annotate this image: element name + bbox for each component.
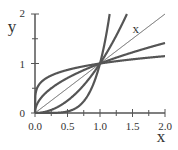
x-tick-label: 0.5	[61, 120, 75, 132]
y-axis-label: y	[8, 17, 17, 36]
y-tick-label: 1	[20, 58, 26, 70]
y-tick-label: 0	[20, 107, 26, 119]
x-tick-label: 1.0	[93, 120, 107, 132]
curve-x-2	[35, 14, 127, 113]
power-function-chart: 0.00.51.01.52.0012xyx	[0, 0, 178, 150]
x-tick-label: 0.0	[28, 120, 42, 132]
curve-annotation: x	[133, 21, 140, 36]
curve-x-1-2-	[35, 43, 165, 113]
y-tick-label: 2	[20, 7, 26, 19]
x-tick-label: 1.5	[126, 120, 140, 132]
x-axis-label: x	[157, 127, 166, 146]
curves	[35, 14, 165, 113]
